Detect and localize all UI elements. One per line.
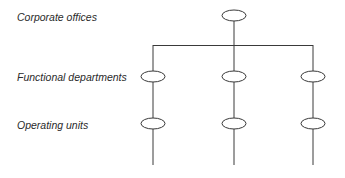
node-operating-unit-3 [301, 118, 325, 129]
hierarchy-diagram [0, 0, 345, 178]
node-functional-department-3 [301, 71, 325, 82]
node-operating-unit-1 [141, 118, 165, 129]
node-functional-department-1 [141, 71, 165, 82]
node-operating-unit-2 [222, 118, 246, 129]
node-functional-department-2 [222, 71, 246, 82]
node-corporate-office [222, 10, 246, 21]
